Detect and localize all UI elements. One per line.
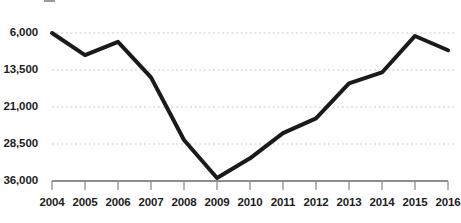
x-axis-tick-label: 2015	[402, 196, 427, 208]
x-axis-tick-label: 2005	[72, 196, 97, 208]
x-axis-tick-label: 2006	[105, 196, 130, 208]
x-axis-tick-label: 2008	[171, 196, 196, 208]
chart-container: 6,00013,50021,00028,50036,000 2004200520…	[0, 0, 461, 223]
x-axis-tick-label: 2016	[435, 196, 460, 208]
x-axis-tick-label: 2011	[271, 196, 296, 208]
x-axis-tick-label: 2007	[138, 196, 163, 208]
x-axis-tick-label: 2010	[237, 196, 262, 208]
x-axis-tick-label: 2012	[303, 196, 328, 208]
x-axis-tick-label: 2014	[369, 196, 394, 208]
x-axis-tick-label: 2013	[336, 196, 361, 208]
x-axis-labels: 2004200520062007200820092010201120122013…	[0, 0, 461, 223]
x-axis-tick-label: 2009	[204, 196, 229, 208]
x-axis-tick-label: 2004	[39, 196, 64, 208]
